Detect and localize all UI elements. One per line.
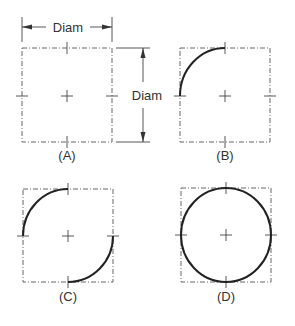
panel-a: Diam Diam (A) [16, 17, 162, 163]
vertical-dimension: Diam [116, 48, 162, 142]
panel-label: (A) [58, 148, 75, 163]
panel-label: (D) [217, 289, 235, 304]
horizontal-dimension: Diam [22, 17, 112, 42]
dimension-label-horizontal: Diam [53, 20, 83, 35]
arc-upper-left [23, 189, 68, 236]
circle-construction-diagram: Diam Diam (A) (B) [0, 0, 295, 326]
arrow-right-icon [102, 25, 112, 30]
arrow-up-icon [141, 48, 146, 58]
center-marks [175, 182, 277, 288]
panel-label: (C) [59, 289, 77, 304]
center-marks [17, 183, 119, 288]
panel-b: (B) [174, 42, 276, 163]
center-marks [174, 42, 276, 148]
center-marks [16, 42, 118, 148]
arc-lower-right [68, 236, 113, 282]
panel-c: (C) [17, 183, 119, 304]
arrow-left-icon [22, 25, 32, 30]
panel-d: (D) [175, 182, 277, 304]
arrow-down-icon [141, 132, 146, 142]
dimension-label-vertical: Diam [132, 88, 162, 103]
panel-label: (B) [216, 148, 233, 163]
arc-upper-left [180, 48, 225, 96]
